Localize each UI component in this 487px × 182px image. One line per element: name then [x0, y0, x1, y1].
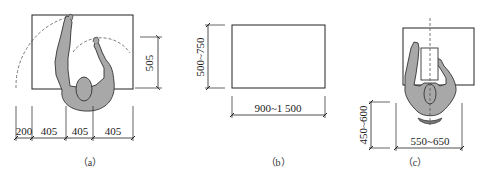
dim-label-405-3: 405 — [105, 125, 122, 137]
panel-c: 450~600 550~650 （c） — [357, 18, 474, 168]
dim-label-405-2: 405 — [72, 125, 89, 137]
panel-a: 505 200 405 405 405 （a） — [14, 14, 162, 168]
caption-a: （a） — [78, 157, 102, 168]
workspace-dimension-diagram: 505 200 405 405 405 （a） 500~750 — [0, 0, 487, 182]
panel-b: 500~750 900~1 500 （b） — [194, 23, 327, 168]
dim-label-900-1500: 900~1 500 — [254, 102, 302, 114]
caption-b: （b） — [266, 157, 291, 168]
dim-label-505: 505 — [143, 54, 155, 71]
dim-label-450-600: 450~600 — [357, 105, 369, 144]
human-figure-a — [55, 14, 114, 111]
book — [421, 48, 438, 80]
dim-label-405-1: 405 — [41, 125, 58, 137]
dim-label-200: 200 — [16, 125, 33, 137]
dim-label-500-750: 500~750 — [194, 37, 206, 76]
caption-c: （c） — [403, 157, 427, 168]
table-rect-b — [232, 25, 325, 88]
dim-label-550-650: 550~650 — [411, 135, 450, 147]
